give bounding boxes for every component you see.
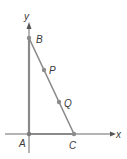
- point-P: [42, 68, 46, 72]
- label-B: B: [36, 34, 43, 45]
- label-P: P: [49, 65, 56, 76]
- label-Q: Q: [64, 98, 72, 109]
- point-B: [27, 36, 31, 40]
- segment-BC: [29, 38, 74, 134]
- y-axis-arrow-icon: [27, 22, 32, 29]
- point-A: [27, 132, 31, 136]
- label-A: A: [18, 138, 26, 149]
- y-axis-label: y: [23, 11, 30, 22]
- coordinate-diagram: y x B P Q A C: [0, 0, 127, 159]
- point-Q: [57, 100, 61, 104]
- point-C: [72, 132, 76, 136]
- label-C: C: [69, 140, 77, 151]
- x-axis-label: x: [115, 129, 122, 140]
